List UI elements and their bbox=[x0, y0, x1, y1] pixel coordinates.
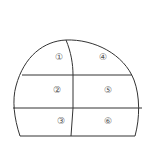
section-label-5: ⑤ bbox=[104, 85, 112, 95]
section-label-1: ① bbox=[55, 52, 63, 62]
tunnel-outline bbox=[13, 40, 142, 136]
section-label-2: ② bbox=[53, 85, 61, 95]
section-label-4: ④ bbox=[99, 52, 107, 62]
section-label-3: ③ bbox=[57, 116, 65, 126]
tunnel-diagram: ① ② ③ ④ ⑤ ⑥ bbox=[0, 0, 149, 144]
tunnel-arch bbox=[14, 40, 139, 136]
divider-vertical bbox=[66, 40, 73, 136]
section-label-6: ⑥ bbox=[104, 116, 112, 126]
